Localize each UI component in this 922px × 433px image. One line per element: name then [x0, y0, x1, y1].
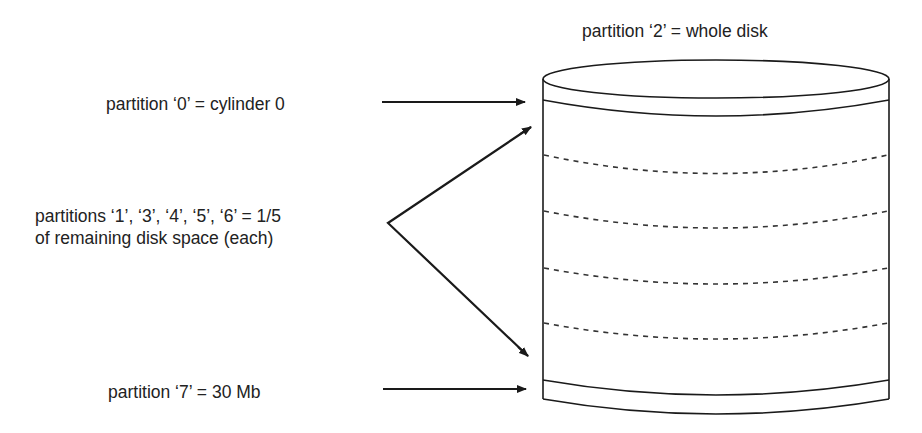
- divider-2: [544, 211, 888, 228]
- partition-7-boundary: [543, 380, 889, 395]
- label-partition-2: partition ‘2’ = whole disk: [582, 20, 768, 42]
- label-partitions-middle-line1: partitions ‘1’, ‘3’, ‘4’, ‘5’, ‘6’ = 1/5: [35, 205, 281, 227]
- divider-4: [544, 323, 888, 339]
- disk-cylinder-icon: [543, 60, 889, 414]
- arrows: [382, 102, 531, 389]
- label-partition-0: partition ‘0’ = cylinder 0: [106, 93, 285, 115]
- divider-3: [544, 268, 888, 284]
- partition-dividers: [544, 155, 888, 339]
- label-partition-7: partition ‘7’ = 30 Mb: [108, 381, 261, 403]
- partition-0-boundary: [543, 100, 889, 116]
- label-partitions-middle-line2: of remaining disk space (each): [35, 227, 273, 249]
- disk-top-ellipse: [543, 60, 889, 98]
- diagram-canvas: partition ‘2’ = whole disk partition ‘0’…: [0, 0, 922, 433]
- arrow-middle-up-head: [520, 127, 531, 134]
- arrow-middle-down-head: [518, 347, 528, 356]
- divider-1: [544, 155, 888, 174]
- disk-bottom-curve: [543, 399, 889, 414]
- arrow-middle-vertex: [388, 127, 531, 356]
